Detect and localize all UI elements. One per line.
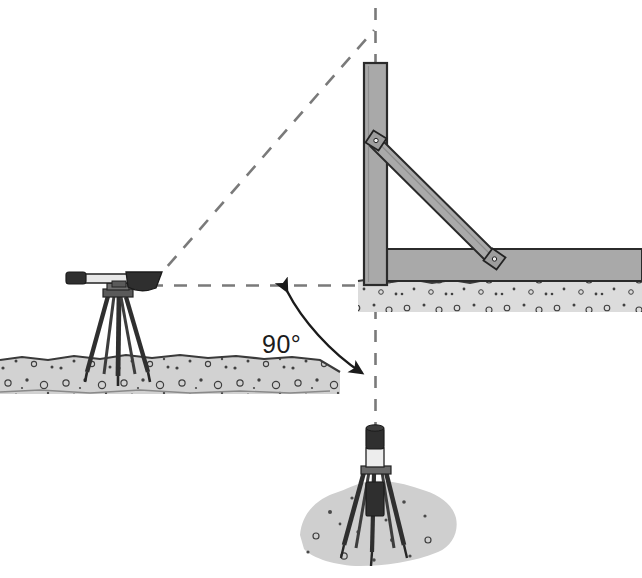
angle-label: 90° bbox=[262, 330, 301, 359]
ground-left bbox=[0, 355, 340, 394]
target-shaft bbox=[366, 448, 384, 467]
telescope-objective bbox=[126, 272, 162, 291]
diagram-canvas bbox=[0, 0, 642, 578]
vertical-formwork-post bbox=[364, 63, 387, 285]
ground-left-fill bbox=[0, 355, 340, 394]
horizontal-formwork-member bbox=[383, 249, 642, 281]
target-lower-body bbox=[366, 482, 384, 516]
telescope-eyepiece bbox=[66, 272, 86, 284]
surveying-diagram: 90° bbox=[0, 0, 642, 578]
